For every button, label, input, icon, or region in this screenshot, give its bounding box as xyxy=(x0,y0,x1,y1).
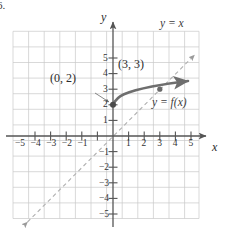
x-tick-label-4: 4 xyxy=(173,139,178,149)
x-tick-label--4: −4 xyxy=(31,139,41,149)
y-axis-label: y xyxy=(101,11,106,23)
x-tick-label--1: −1 xyxy=(77,139,87,149)
point-3-3 xyxy=(157,87,162,92)
y-tick-label-5: 5 xyxy=(103,54,108,64)
y-tick-label--5: −5 xyxy=(99,210,109,220)
point-label-curve-point: (3, 3) xyxy=(118,58,144,70)
figure-screenshot: 6. xyxy=(0,0,229,244)
identity-line-label: y = x xyxy=(160,18,184,30)
x-tick-label-2: 2 xyxy=(142,139,147,149)
point-0-2 xyxy=(110,102,116,108)
x-axis-label: x xyxy=(212,141,217,153)
y-tick-label--4: −4 xyxy=(99,194,109,204)
point-label-y-intercept: (0, 2) xyxy=(50,72,76,84)
y-tick-label-4: 4 xyxy=(103,69,108,79)
y-tick-label-3: 3 xyxy=(103,85,108,95)
y-tick-label--2: −2 xyxy=(99,163,109,173)
y-tick-label-1: 1 xyxy=(103,116,108,126)
y-tick-label--3: −3 xyxy=(99,179,109,189)
y-tick-label-2: 2 xyxy=(103,100,108,110)
y-tick-label--1: −1 xyxy=(99,148,109,158)
x-tick-label--3: −3 xyxy=(46,139,56,149)
x-tick-label--5: −5 xyxy=(15,139,25,149)
x-tick-label-5: 5 xyxy=(188,139,193,149)
x-tick-label-3: 3 xyxy=(157,139,162,149)
coordinate-plane-graph xyxy=(0,0,229,244)
x-tick-label-1: 1 xyxy=(126,139,131,149)
x-tick-label--2: −2 xyxy=(62,139,72,149)
function-label: y = f(x) xyxy=(152,97,187,109)
